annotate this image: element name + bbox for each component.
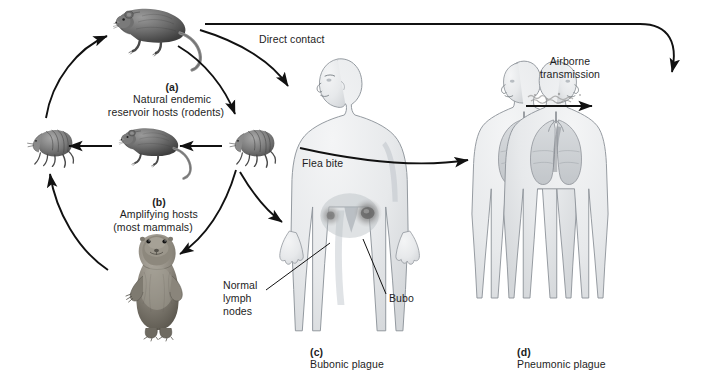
leader-bubo xyxy=(363,239,386,294)
panel-d-tag: (d) xyxy=(517,346,531,358)
direct-contact-label: Direct contact xyxy=(259,33,325,46)
panel-d-caption: (d) Pneumonic plague xyxy=(505,333,606,374)
panel-b-text: Amplifying hosts (most mammals) xyxy=(113,208,198,233)
panel-c-tag: (c) xyxy=(310,346,323,358)
flea-bite-label: Flea bite xyxy=(302,157,343,170)
panel-c-text: Bubonic plague xyxy=(310,358,384,370)
panel-a-tag: (a) xyxy=(165,81,178,93)
panel-b-tag: (b) xyxy=(152,196,166,208)
bubo-label: Bubo xyxy=(389,292,414,305)
panel-d-text: Pneumonic plague xyxy=(517,358,606,370)
panel-a-text: Natural endemic reservoir hosts (rodents… xyxy=(108,93,224,118)
panel-a-caption: (a) Natural endemic reservoir hosts (rod… xyxy=(86,68,246,131)
panel-c-caption: (c) Bubonic plague xyxy=(298,333,384,374)
airborne-transmission-label: Airborne transmission xyxy=(529,55,611,80)
panel-b-caption: (b) Amplifying hosts (most mammals) xyxy=(78,183,228,246)
leader-normal-lymph-nodes xyxy=(266,243,330,290)
normal-lymph-nodes-label: Normal lymph nodes xyxy=(223,279,257,318)
arrow-flea-bite-to-groin xyxy=(240,172,282,222)
